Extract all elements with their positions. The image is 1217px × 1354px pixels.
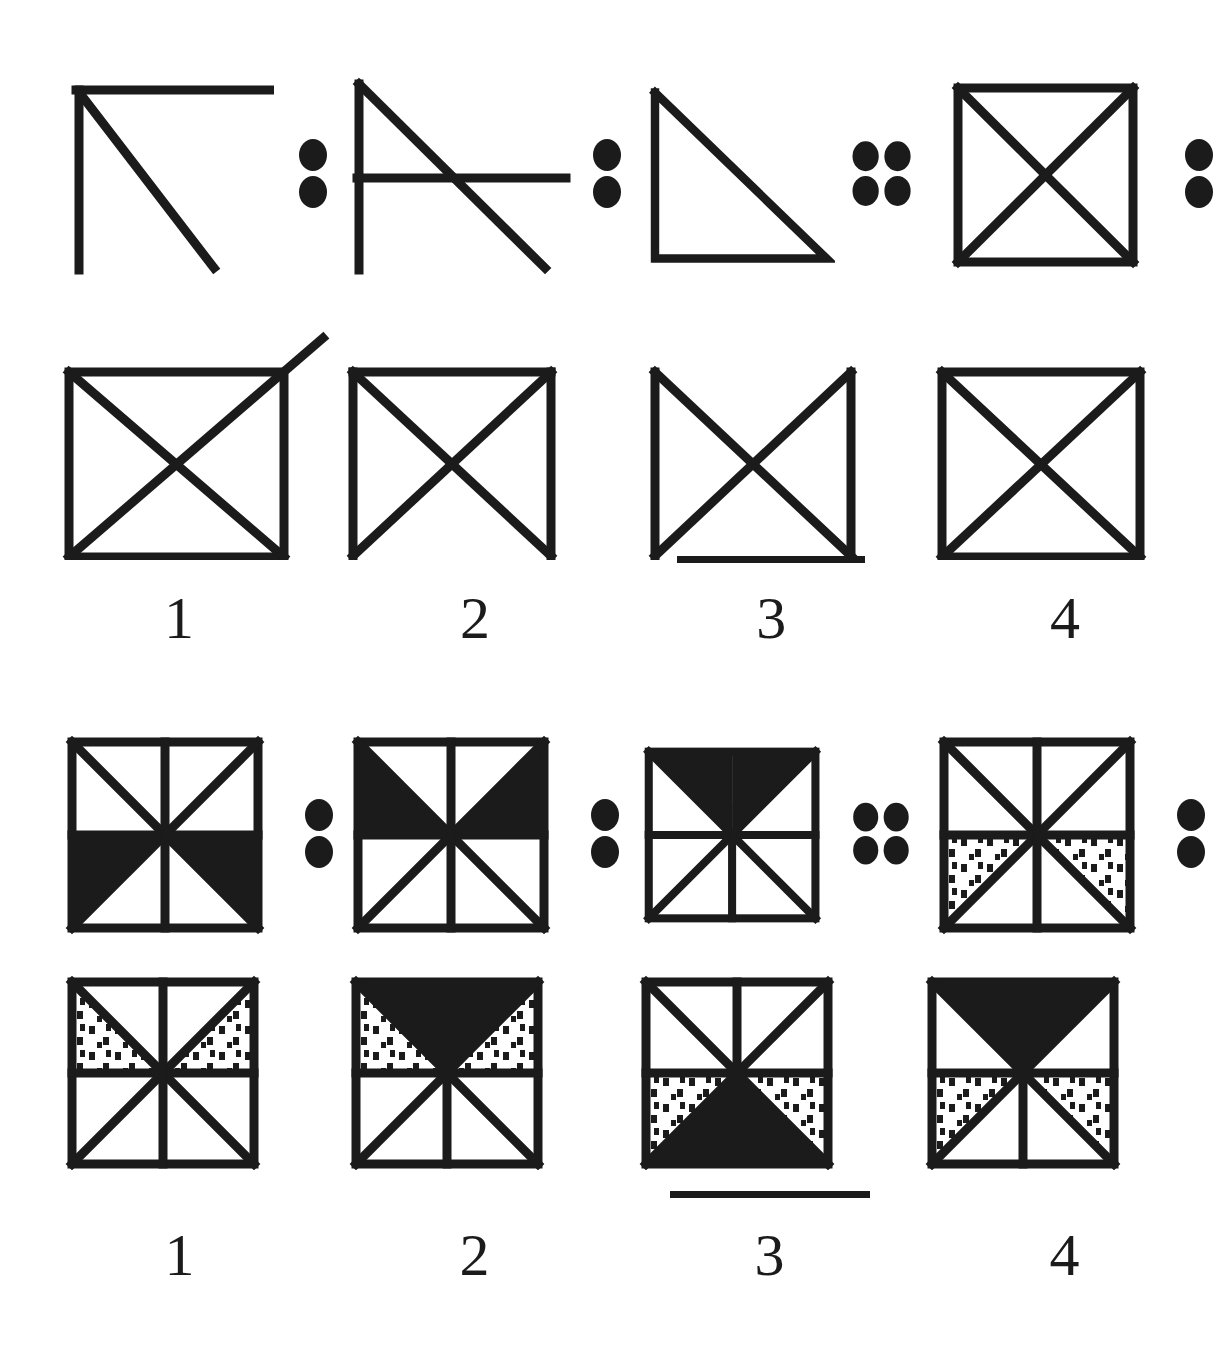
section-simple-line-figures: 1 2 3 4 <box>0 0 1212 680</box>
figure-eight-wedge-square <box>932 730 1160 940</box>
figure-eight-wedge-square <box>60 730 288 940</box>
separator-dots-4 <box>845 130 920 220</box>
figure-eight-wedge-square <box>638 730 842 940</box>
top-answer-label-4[interactable]: 4 <box>908 588 1212 648</box>
top-answer-label-3[interactable]: 3 <box>616 588 908 648</box>
separator-dots-2 <box>1168 790 1214 880</box>
top-answer-label-1[interactable]: 1 <box>0 588 320 648</box>
separator-dots-2 <box>290 130 336 220</box>
option-number: 4 <box>1050 585 1080 651</box>
top-answer-option-2[interactable] <box>335 330 611 560</box>
top-problem-item-1 <box>0 70 336 280</box>
figure-eight-wedge-square <box>60 970 288 1170</box>
figure-corner-with-diagonal <box>62 70 274 280</box>
figure-x-with-side-edges-only <box>633 330 863 560</box>
option-number: 2 <box>460 585 490 651</box>
separator-dots-2 <box>296 790 342 880</box>
wedge-fills <box>646 1073 828 1164</box>
top-problem-item-4 <box>920 70 1217 280</box>
figure-eight-wedge-square <box>634 970 862 1170</box>
top-answer-option-1[interactable] <box>0 330 335 560</box>
bottom-answer-label-4[interactable]: 4 <box>907 1225 1212 1285</box>
figure-right-triangle <box>640 73 835 278</box>
top-answer-row <box>0 330 1212 560</box>
wedge-fills <box>649 752 816 835</box>
bottom-answer-labels: 1 2 3 4 <box>0 1225 1212 1285</box>
bottom-answer-label-1[interactable]: 1 <box>0 1225 321 1285</box>
option-number: 1 <box>164 585 194 651</box>
top-problem-item-3 <box>630 70 920 280</box>
top-problem-row <box>0 70 1212 280</box>
bottom-problem-item-3 <box>628 730 918 940</box>
separator-dots-2 <box>584 130 630 220</box>
figure-square-with-x-and-overshoot <box>55 330 335 560</box>
figure-square-with-x <box>942 75 1148 275</box>
option-number: 3 <box>755 1222 785 1288</box>
figure-vertical-diagonal-horizontal <box>342 70 572 280</box>
figure-eight-wedge-square <box>346 730 574 940</box>
top-answer-labels: 1 2 3 4 <box>0 588 1212 648</box>
option-number: 3 <box>756 585 786 651</box>
wedge-fills <box>356 982 538 1073</box>
top-answer-label-2[interactable]: 2 <box>320 588 616 648</box>
bottom-answer-row <box>0 970 1212 1170</box>
bottom-answer-option-1[interactable] <box>0 970 340 1170</box>
separator-dots-2 <box>1176 130 1217 220</box>
option-number: 2 <box>460 1222 490 1288</box>
figure-eight-wedge-square <box>344 970 572 1170</box>
bottom-answer-label-3[interactable]: 3 <box>616 1225 907 1285</box>
selected-answer-underline <box>677 556 865 563</box>
bottom-problem-item-4 <box>918 730 1214 940</box>
top-answer-option-4[interactable] <box>902 330 1212 560</box>
bottom-problem-item-2 <box>342 730 628 940</box>
bottom-answer-option-3[interactable] <box>624 970 906 1170</box>
separator-dots-2 <box>582 790 628 880</box>
selected-answer-underline <box>670 1191 870 1198</box>
top-problem-item-2 <box>336 70 630 280</box>
bottom-problem-row <box>0 730 1212 940</box>
top-answer-option-3[interactable] <box>611 330 902 560</box>
figure-eight-wedge-square <box>920 970 1148 1170</box>
bottom-answer-label-2[interactable]: 2 <box>321 1225 616 1285</box>
bottom-answer-option-4[interactable] <box>906 970 1212 1170</box>
separator-dots-4 <box>846 790 918 880</box>
figure-square-with-x-no-bottom-edge <box>335 330 575 560</box>
option-number: 4 <box>1050 1222 1080 1288</box>
section-eight-wedge-shaded-squares: 1 2 3 4 <box>0 680 1212 1354</box>
bottom-problem-item-1 <box>0 730 342 940</box>
bottom-answer-option-2[interactable] <box>340 970 624 1170</box>
option-number: 1 <box>165 1222 195 1288</box>
figure-square-with-x <box>924 330 1154 560</box>
